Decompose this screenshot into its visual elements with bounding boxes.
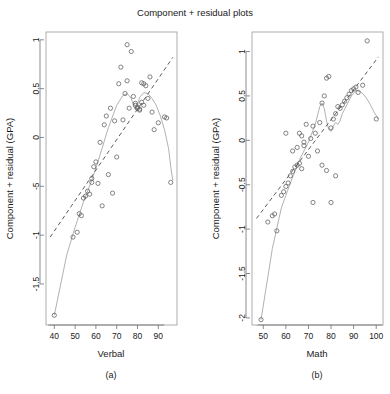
x-tick-label: 40 bbox=[50, 331, 60, 341]
scatter-point bbox=[304, 122, 308, 126]
component-residual-figure: Component + residual plots 10.50-5-1-1.5… bbox=[0, 0, 390, 394]
x-tick-label: 80 bbox=[133, 331, 143, 341]
y-axis-title: Component + residual (GPA) bbox=[210, 118, 221, 240]
scatter-point bbox=[324, 168, 328, 172]
panel-caption: (b) bbox=[312, 370, 323, 380]
y-tick-label: -5 bbox=[31, 182, 41, 190]
scatter-point bbox=[266, 220, 270, 224]
y-tick-label: -1.5 bbox=[31, 276, 41, 291]
scatter-point bbox=[150, 110, 154, 114]
scatter-point bbox=[313, 131, 317, 135]
panel-caption: (a) bbox=[106, 370, 117, 380]
scatter-point bbox=[131, 94, 135, 98]
scatter-point bbox=[169, 180, 173, 184]
scatter-point bbox=[306, 154, 310, 158]
x-tick-label: 60 bbox=[281, 331, 291, 341]
scatter-point bbox=[333, 174, 337, 178]
scatter-point bbox=[102, 123, 106, 127]
y-tick-label: -0.5 bbox=[237, 177, 247, 192]
x-tick-label: 90 bbox=[154, 331, 164, 341]
scatter-point bbox=[110, 191, 114, 195]
scatter-point bbox=[374, 117, 378, 121]
regression-fit-line bbox=[257, 57, 379, 219]
x-tick-label: 80 bbox=[326, 331, 336, 341]
scatter-point bbox=[121, 118, 125, 122]
scatter-point bbox=[113, 119, 117, 123]
x-tick-label: 50 bbox=[259, 331, 269, 341]
scatter-point bbox=[125, 79, 129, 83]
y-tick-label: 0 bbox=[31, 135, 41, 140]
scatter-point bbox=[148, 75, 152, 79]
y-tick-label: -1.5 bbox=[237, 266, 247, 281]
scatter-point bbox=[284, 131, 288, 135]
scatter-point bbox=[311, 200, 315, 204]
scatter-point bbox=[365, 39, 369, 43]
x-tick-label: 90 bbox=[349, 331, 359, 341]
scatter-point bbox=[361, 83, 365, 87]
y-axis-title: Component + residual (GPA) bbox=[4, 118, 15, 240]
scatter-point bbox=[88, 192, 92, 196]
scatter-point bbox=[297, 131, 301, 135]
x-tick-label: 70 bbox=[112, 331, 122, 341]
y-tick-label: 0.5 bbox=[237, 90, 247, 102]
scatter-point bbox=[106, 172, 110, 176]
scatter-point bbox=[315, 149, 319, 153]
x-axis-title: Math bbox=[306, 348, 327, 359]
plot-data-area bbox=[50, 43, 173, 318]
scatter-point bbox=[108, 106, 112, 110]
x-tick-label: 70 bbox=[304, 331, 314, 341]
scatter-point bbox=[92, 165, 96, 169]
figure-title: Component + residual plots bbox=[137, 7, 253, 18]
scatter-point bbox=[146, 96, 150, 100]
scatter-point bbox=[127, 106, 131, 110]
y-tick-label: 1 bbox=[31, 37, 41, 42]
x-tick-label: 50 bbox=[70, 331, 80, 341]
scatter-point bbox=[152, 128, 156, 132]
x-tick-label: 60 bbox=[91, 331, 101, 341]
y-tick-label: -2 bbox=[237, 314, 247, 322]
y-tick-label: 0.5 bbox=[31, 82, 41, 94]
scatter-point bbox=[104, 114, 108, 118]
scatter-point bbox=[96, 181, 100, 185]
scatter-point bbox=[282, 190, 286, 194]
y-tick-label: 1 bbox=[237, 49, 247, 54]
x-axis-title: Verbal bbox=[98, 348, 125, 359]
scatter-point bbox=[329, 200, 333, 204]
y-tick-label: -1 bbox=[31, 231, 41, 239]
scatter-point bbox=[100, 204, 104, 208]
panel-b-math: 10.50-0.5-1-1.5-25060708090100Component … bbox=[210, 32, 384, 380]
scatter-point bbox=[320, 163, 324, 167]
scatter-point bbox=[98, 140, 102, 144]
plot-frame bbox=[252, 32, 383, 325]
scatter-point bbox=[129, 49, 133, 53]
scatter-point bbox=[318, 120, 322, 124]
x-tick-label: 100 bbox=[369, 331, 383, 341]
plot-data-area bbox=[257, 39, 379, 322]
lowess-smoother-line bbox=[54, 93, 173, 316]
regression-fit-line bbox=[50, 57, 173, 237]
scatter-point bbox=[300, 134, 304, 138]
scatter-point bbox=[300, 167, 304, 171]
scatter-point bbox=[156, 121, 160, 125]
scatter-point bbox=[142, 103, 146, 107]
plot-frame bbox=[46, 32, 177, 325]
figure-canvas: Component + residual plots 10.50-5-1-1.5… bbox=[0, 0, 390, 394]
scatter-point bbox=[117, 82, 121, 86]
panel-a-verbal: 10.50-5-1-1.5405060708090Component + res… bbox=[4, 32, 177, 380]
y-tick-label: -1 bbox=[237, 225, 247, 233]
y-tick-label: 0 bbox=[237, 138, 247, 143]
scatter-point bbox=[322, 94, 326, 98]
scatter-point bbox=[295, 145, 299, 149]
scatter-point bbox=[115, 155, 119, 159]
scatter-point bbox=[75, 230, 79, 234]
scatter-point bbox=[286, 181, 290, 185]
scatter-point bbox=[291, 149, 295, 153]
scatter-point bbox=[125, 43, 129, 47]
scatter-point bbox=[119, 65, 123, 69]
